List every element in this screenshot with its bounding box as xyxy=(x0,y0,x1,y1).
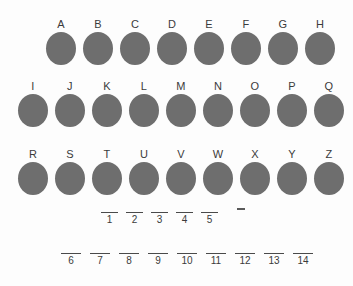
letter-label: A xyxy=(46,18,76,30)
letter-row-3: R S T U V W X Y xyxy=(18,148,344,195)
answer-slot-index: 11 xyxy=(205,255,227,266)
letter-disc-icon[interactable] xyxy=(92,94,122,127)
answer-slot-line xyxy=(177,253,197,254)
letter-disc-icon[interactable] xyxy=(305,32,335,65)
letter-disc-icon[interactable] xyxy=(18,162,48,195)
answer-blank-row-bottom: 6 7 8 9 10 11 12 13 xyxy=(60,253,321,266)
letter-disc-icon[interactable] xyxy=(166,162,196,195)
letter-disc-icon[interactable] xyxy=(203,162,233,195)
letter-disc-icon[interactable] xyxy=(203,94,233,127)
letter-button-w[interactable]: W xyxy=(203,148,233,195)
letter-label: F xyxy=(231,18,261,30)
letter-button-z[interactable]: Z xyxy=(314,148,344,195)
letter-button-c[interactable]: C xyxy=(120,18,150,65)
answer-slot-8[interactable]: 8 xyxy=(118,253,140,266)
letter-row-2: I J K L M N O P xyxy=(18,80,344,127)
letter-disc-icon[interactable] xyxy=(314,162,344,195)
letter-disc-icon[interactable] xyxy=(92,162,122,195)
answer-slot-4[interactable]: 4 xyxy=(175,212,194,225)
letter-button-e[interactable]: E xyxy=(194,18,224,65)
letter-label: G xyxy=(268,18,298,30)
answer-slot-line xyxy=(206,253,226,254)
letter-disc-icon[interactable] xyxy=(277,162,307,195)
answer-slot-5[interactable]: 5 xyxy=(200,212,219,225)
letter-disc-icon[interactable] xyxy=(55,94,85,127)
letter-disc-icon[interactable] xyxy=(18,94,48,127)
letter-disc-icon[interactable] xyxy=(231,32,261,65)
answer-slot-11[interactable]: 11 xyxy=(205,253,227,266)
letter-disc-icon[interactable] xyxy=(83,32,113,65)
letter-label: R xyxy=(18,148,48,160)
letter-button-l[interactable]: L xyxy=(129,80,159,127)
answer-slot-line xyxy=(201,212,218,213)
letter-disc-icon[interactable] xyxy=(268,32,298,65)
answer-slot-9[interactable]: 9 xyxy=(147,253,169,266)
letter-disc-icon[interactable] xyxy=(46,32,76,65)
answer-slot-13[interactable]: 13 xyxy=(263,253,285,266)
letter-label: P xyxy=(277,80,307,92)
answer-slot-1[interactable]: 1 xyxy=(100,212,119,225)
letter-button-n[interactable]: N xyxy=(203,80,233,127)
letter-disc-icon[interactable] xyxy=(194,32,224,65)
letter-disc-icon[interactable] xyxy=(129,94,159,127)
answer-slot-line xyxy=(151,212,168,213)
letter-label: C xyxy=(120,18,150,30)
answer-slot-index: 3 xyxy=(150,214,169,225)
letter-disc-icon[interactable] xyxy=(240,162,270,195)
answer-slot-7[interactable]: 7 xyxy=(89,253,111,266)
letter-button-s[interactable]: S xyxy=(55,148,85,195)
letter-button-b[interactable]: B xyxy=(83,18,113,65)
answer-slot-3[interactable]: 3 xyxy=(150,212,169,225)
letter-button-m[interactable]: M xyxy=(166,80,196,127)
letter-disc-icon[interactable] xyxy=(166,94,196,127)
letter-button-g[interactable]: G xyxy=(268,18,298,65)
answer-slot-index: 7 xyxy=(89,255,111,266)
letter-button-d[interactable]: D xyxy=(157,18,187,65)
letter-label: D xyxy=(157,18,187,30)
letter-button-h[interactable]: H xyxy=(305,18,335,65)
letter-disc-icon[interactable] xyxy=(157,32,187,65)
answer-slot-10[interactable]: 10 xyxy=(176,253,198,266)
letter-row-1: A B C D E F G H xyxy=(46,18,335,65)
letter-disc-icon[interactable] xyxy=(55,162,85,195)
letter-button-r[interactable]: R xyxy=(18,148,48,195)
answer-slot-index: 14 xyxy=(292,255,314,266)
answer-slot-line xyxy=(61,253,81,254)
letter-button-p[interactable]: P xyxy=(277,80,307,127)
letter-label: Z xyxy=(314,148,344,160)
letter-disc-icon[interactable] xyxy=(314,94,344,127)
letter-disc-icon[interactable] xyxy=(277,94,307,127)
answer-slot-index: 6 xyxy=(60,255,82,266)
letter-button-i[interactable]: I xyxy=(18,80,48,127)
answer-slot-line xyxy=(126,212,143,213)
trailing-dash-icon xyxy=(237,208,245,210)
answer-slot-index: 2 xyxy=(125,214,144,225)
letter-button-o[interactable]: O xyxy=(240,80,270,127)
answer-slot-index: 12 xyxy=(234,255,256,266)
answer-slot-index: 13 xyxy=(263,255,285,266)
answer-slot-line xyxy=(235,253,255,254)
letter-button-t[interactable]: T xyxy=(92,148,122,195)
letter-button-u[interactable]: U xyxy=(129,148,159,195)
letter-button-a[interactable]: A xyxy=(46,18,76,65)
letter-button-f[interactable]: F xyxy=(231,18,261,65)
answer-slot-2[interactable]: 2 xyxy=(125,212,144,225)
letter-disc-icon[interactable] xyxy=(129,162,159,195)
letter-button-y[interactable]: Y xyxy=(277,148,307,195)
letter-label: S xyxy=(55,148,85,160)
letter-button-q[interactable]: Q xyxy=(314,80,344,127)
letter-button-v[interactable]: V xyxy=(166,148,196,195)
letter-guess-board: A B C D E F G H xyxy=(0,0,353,286)
answer-slot-12[interactable]: 12 xyxy=(234,253,256,266)
letter-disc-icon[interactable] xyxy=(120,32,150,65)
letter-label: B xyxy=(83,18,113,30)
letter-button-k[interactable]: K xyxy=(92,80,122,127)
answer-slot-6[interactable]: 6 xyxy=(60,253,82,266)
letter-disc-icon[interactable] xyxy=(240,94,270,127)
letter-button-x[interactable]: X xyxy=(240,148,270,195)
letter-button-j[interactable]: J xyxy=(55,80,85,127)
letter-label: H xyxy=(305,18,335,30)
letter-label: V xyxy=(166,148,196,160)
letter-label: X xyxy=(240,148,270,160)
answer-slot-14[interactable]: 14 xyxy=(292,253,314,266)
